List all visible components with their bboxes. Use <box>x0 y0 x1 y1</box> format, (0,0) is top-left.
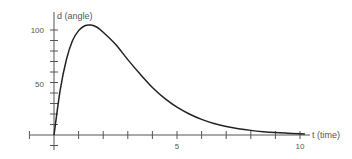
x-tick-label-5: 5 <box>175 142 180 151</box>
y-tick-label-100: 100 <box>31 26 45 35</box>
x-axis-label: t (time) <box>312 130 340 140</box>
data-curve <box>54 25 305 135</box>
y-tick-label-50: 50 <box>35 80 44 89</box>
x-tick-label-10: 10 <box>296 142 305 151</box>
line-chart: 5 10 100 50 t (time) d (angle) <box>0 0 352 159</box>
y-axis-label: d (angle) <box>57 11 93 21</box>
